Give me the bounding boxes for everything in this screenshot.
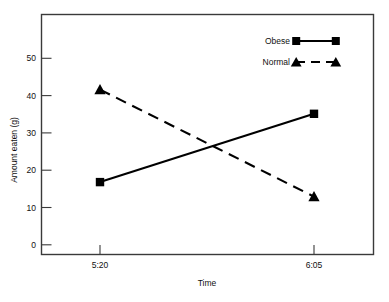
- obese-marker-605: [310, 110, 318, 118]
- y-tick-label-0: 0: [31, 240, 36, 250]
- legend-square-marker-left: [292, 37, 300, 45]
- y-tick-label-10: 10: [27, 203, 37, 213]
- y-tick-label-30: 30: [27, 128, 37, 138]
- x-tick-label-520: 5:20: [92, 260, 109, 270]
- y-tick-label-40: 40: [27, 91, 37, 101]
- line-chart: 50 40 30 20 10 0 5:20 6:05 Time Amount e…: [0, 0, 389, 302]
- obese-marker-520: [96, 178, 104, 186]
- y-tick-label-20: 20: [27, 165, 37, 175]
- x-axis-tick-labels: 5:20 6:05: [92, 260, 323, 270]
- x-tick-label-605: 6:05: [306, 260, 323, 270]
- legend-label-normal: Normal: [263, 57, 291, 67]
- y-axis-title: Amount eaten (g): [9, 117, 19, 183]
- legend-label-obese: Obese: [265, 36, 290, 46]
- chart-figure: 50 40 30 20 10 0 5:20 6:05 Time Amount e…: [0, 0, 389, 302]
- y-tick-label-50: 50: [27, 53, 37, 63]
- x-axis-title: Time: [198, 278, 217, 288]
- plot-frame: [42, 15, 374, 255]
- y-axis-tick-labels: 50 40 30 20 10 0: [27, 53, 37, 250]
- legend-square-marker-right: [332, 37, 340, 45]
